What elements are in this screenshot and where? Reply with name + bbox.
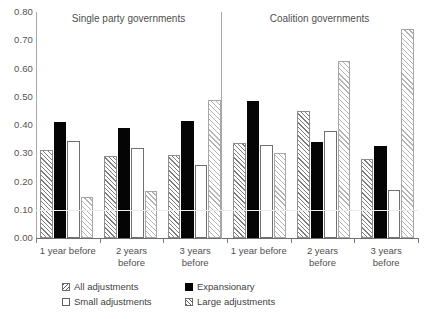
x-axis-tick bbox=[227, 238, 228, 243]
legend-label-small-adjustments: Small adjustments bbox=[74, 296, 152, 307]
open-white-swatch-icon bbox=[62, 298, 70, 306]
bar bbox=[81, 197, 94, 238]
bar bbox=[181, 121, 194, 238]
plot-area bbox=[36, 12, 418, 238]
panel-title-coalition: Coalition governments bbox=[250, 13, 390, 25]
y-axis-tick-label: 0.20 bbox=[1, 177, 33, 187]
bar bbox=[208, 100, 221, 238]
bar bbox=[145, 191, 158, 238]
bar bbox=[297, 111, 310, 238]
bar bbox=[131, 148, 144, 238]
legend-item-large-adjustments: Large adjustments bbox=[185, 296, 275, 307]
hatch-light-swatch-icon bbox=[185, 298, 193, 306]
x-axis-tick bbox=[418, 238, 419, 243]
y-axis: 0.800.700.600.500.400.300.200.100.00 bbox=[0, 0, 33, 319]
bar bbox=[274, 153, 287, 238]
bar bbox=[401, 29, 414, 238]
bar bbox=[361, 159, 374, 238]
solid-black-swatch-icon bbox=[185, 283, 193, 291]
y-axis-tick-label: 0.10 bbox=[1, 205, 33, 215]
bar bbox=[233, 143, 246, 238]
x-axis-tick bbox=[291, 238, 292, 243]
panel-title-single-party: Single party governments bbox=[59, 13, 199, 25]
x-axis-label: 3 years before bbox=[354, 245, 418, 268]
legend-label-large-adjustments: Large adjustments bbox=[197, 296, 275, 307]
bar bbox=[40, 150, 53, 238]
y-axis-tick-label: 0.30 bbox=[1, 148, 33, 158]
x-axis-label: 2 years before bbox=[291, 245, 355, 268]
y-axis-tick-label: 0.50 bbox=[1, 92, 33, 102]
legend-item-small-adjustments: Small adjustments bbox=[62, 296, 185, 307]
x-axis-label: 1 year before bbox=[227, 245, 291, 257]
bar bbox=[54, 122, 67, 238]
gridline bbox=[36, 210, 418, 211]
bar bbox=[247, 101, 260, 238]
bar-chart-figure: 0.800.700.600.500.400.300.200.100.00 All… bbox=[0, 0, 425, 319]
y-axis-tick-label: 0.00 bbox=[1, 233, 33, 243]
legend-row-1: All adjustments Expansionary bbox=[62, 281, 362, 296]
bar bbox=[374, 146, 387, 238]
legend-item-all-adjustments: All adjustments bbox=[62, 281, 185, 292]
bar bbox=[118, 128, 131, 238]
x-axis-tick bbox=[36, 238, 37, 243]
y-axis-tick-label: 0.40 bbox=[1, 120, 33, 130]
bar bbox=[168, 155, 181, 238]
x-axis-label: 1 year before bbox=[36, 245, 100, 257]
x-axis-label: 3 years before bbox=[163, 245, 227, 268]
legend-label-all-adjustments: All adjustments bbox=[74, 281, 138, 292]
bar bbox=[260, 145, 273, 238]
y-axis-tick-label: 0.80 bbox=[1, 7, 33, 17]
bar bbox=[388, 190, 401, 238]
hatch-dark-swatch-icon bbox=[62, 283, 70, 291]
legend-label-expansionary: Expansionary bbox=[197, 281, 255, 292]
chart-legend: All adjustments Expansionary Small adjus… bbox=[62, 281, 362, 311]
x-axis-tick bbox=[163, 238, 164, 243]
x-axis-tick bbox=[354, 238, 355, 243]
bar bbox=[67, 141, 80, 238]
bar bbox=[104, 156, 117, 238]
x-axis-tick bbox=[100, 238, 101, 243]
legend-row-2: Small adjustments Large adjustments bbox=[62, 296, 362, 311]
bar bbox=[324, 131, 337, 238]
bar bbox=[338, 61, 351, 238]
legend-item-expansionary: Expansionary bbox=[185, 281, 255, 292]
bar bbox=[195, 165, 208, 238]
x-axis-label: 2 years before bbox=[100, 245, 164, 268]
y-axis-tick-label: 0.60 bbox=[1, 64, 33, 74]
bar bbox=[311, 142, 324, 238]
y-axis-tick-label: 0.70 bbox=[1, 35, 33, 45]
